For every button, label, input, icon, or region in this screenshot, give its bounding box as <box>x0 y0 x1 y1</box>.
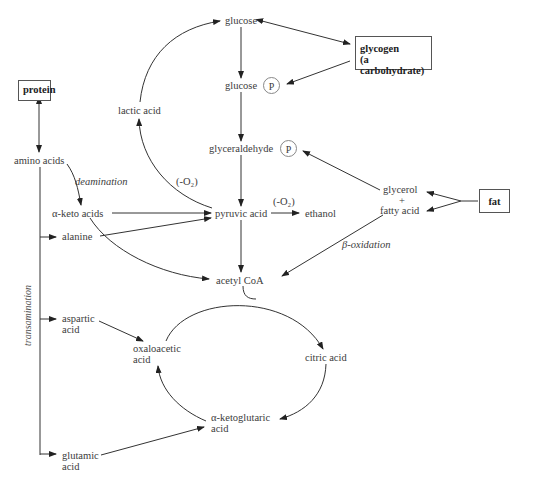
process-anaerobic-ethanol: (-O₂) <box>273 196 295 207</box>
oxaloacetic-line1: oxaloacetic <box>133 343 181 354</box>
node-aspartic-acid: aspartic acid <box>62 313 95 335</box>
node-fatty-acid: fatty acid <box>380 205 419 216</box>
node-protein-box: protein <box>18 80 51 101</box>
node-amino-acids: amino acids <box>14 155 64 166</box>
node-glucose-phosphate: glucose <box>225 80 257 91</box>
aspartic-line1: aspartic <box>62 313 95 324</box>
phosphate-circle-icon: P <box>263 77 280 94</box>
node-alanine: alanine <box>62 231 92 242</box>
node-oxaloacetic-acid: oxaloacetic acid <box>133 343 181 365</box>
oxaloacetic-line2: acid <box>133 354 181 365</box>
node-citric-acid: citric acid <box>305 352 347 363</box>
glycogen-sublabel: (a carbohydrate) <box>360 54 427 76</box>
glycogen-label: glycogen <box>360 43 427 54</box>
phosphate-circle-icon: P <box>280 140 297 157</box>
aspartic-line2: acid <box>62 324 95 335</box>
node-pyruvic-acid: pyruvic acid <box>215 208 267 219</box>
alpha-ketoglutaric-line1: α-ketoglutaric <box>211 412 270 423</box>
node-glutamic-acid: glutamic acid <box>62 450 99 472</box>
glutamic-line1: glutamic <box>62 450 99 461</box>
node-glucose: glucose <box>225 15 257 26</box>
node-glycogen-box: glycogen (a carbohydrate) <box>355 36 432 70</box>
alpha-ketoglutaric-line2: acid <box>211 423 270 434</box>
node-ethanol: ethanol <box>305 208 336 219</box>
process-transamination: transamination <box>22 285 33 346</box>
process-deamination: deamination <box>75 176 128 187</box>
node-glyceraldehyde-phosphate: glyceraldehyde <box>209 143 273 154</box>
glutamic-line2: acid <box>62 461 99 472</box>
node-glycerol: glycerol <box>383 184 417 195</box>
node-lactic-acid: lactic acid <box>118 105 161 116</box>
process-anaerobic-lactic: (-O₂) <box>176 176 198 187</box>
node-acetyl-coa: acetyl CoA <box>216 275 264 286</box>
node-alpha-ketoglutaric-acid: α-ketoglutaric acid <box>211 412 270 434</box>
process-beta-oxidation: β-oxidation <box>342 239 390 250</box>
node-alpha-keto-acids: α-keto acids <box>52 208 103 219</box>
node-fat-box: fat <box>479 189 510 213</box>
